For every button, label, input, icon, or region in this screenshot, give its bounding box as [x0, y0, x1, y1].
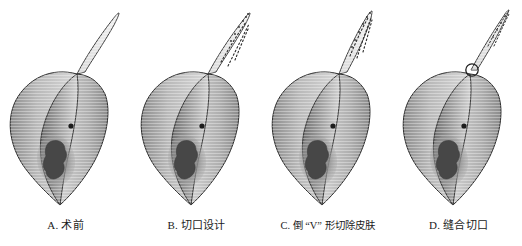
figure-panel-d: D. 缝合切口	[393, 0, 522, 246]
tip-projection	[77, 13, 119, 74]
marker-dot	[68, 123, 73, 128]
marker-dot	[199, 123, 204, 128]
figure-panel-b: B. 切口设计	[131, 0, 262, 246]
panel-b-illustration	[131, 0, 262, 216]
panel-c-caption: C. 倒 “V” 形切除皮肤	[262, 218, 393, 233]
tip-projection	[339, 11, 372, 74]
figure-panel-c: C. 倒 “V” 形切除皮肤	[262, 0, 393, 246]
panel-c-illustration	[262, 0, 393, 216]
panel-b-caption: B. 切口设计	[131, 218, 262, 233]
marker-dot	[461, 123, 466, 128]
marker-dot	[330, 123, 335, 128]
panel-a-illustration	[0, 0, 131, 216]
panel-d-illustration	[393, 0, 522, 216]
panel-a-caption: A. 术前	[0, 218, 131, 233]
figure-panel-a: A. 术前	[0, 0, 131, 246]
figure-board: A. 术前	[0, 0, 522, 246]
panel-d-caption: D. 缝合切口	[393, 218, 522, 233]
